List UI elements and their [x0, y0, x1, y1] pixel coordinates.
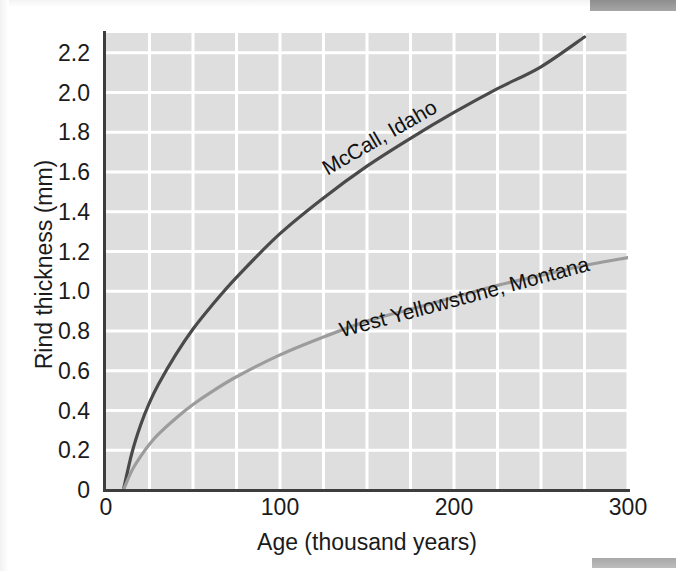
x-axis-title: Age (thousand years) [106, 529, 628, 556]
y-tick-label: 2.2 [0, 42, 98, 65]
y-tick-label: 0.2 [0, 439, 98, 462]
x-tick-label: 0 [100, 496, 113, 519]
y-axis-line [103, 31, 106, 492]
x-tick-label: 300 [609, 496, 647, 519]
scanned-figure-page: 00.20.40.60.81.01.21.41.61.82.02.2 01002… [0, 0, 676, 571]
y-axis-title: Rind thickness (mm) [31, 125, 58, 405]
y-tick-label: 2.0 [0, 82, 98, 105]
x-tick-label: 200 [435, 496, 473, 519]
x-axis-line [103, 489, 630, 492]
y-tick-label: 0 [0, 479, 98, 502]
x-tick-label: 100 [261, 496, 299, 519]
rind-thickness-vs-age-chart: 00.20.40.60.81.01.21.41.61.82.02.2 01002… [0, 0, 676, 571]
